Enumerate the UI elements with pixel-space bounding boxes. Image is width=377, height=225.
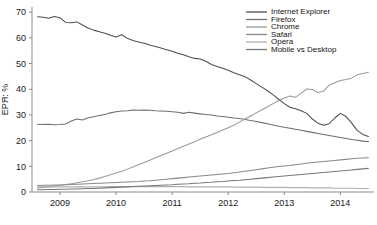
chart-legend: Internet ExplorerFirefoxChromeSafariOper… — [246, 7, 337, 54]
x-axis-tick-label: 2011 — [162, 198, 181, 208]
series-line-firefox — [38, 110, 369, 142]
series-lines-group — [38, 17, 369, 190]
x-axis-tick-label: 2009 — [50, 198, 70, 208]
y-axis-tick-label: 70 — [16, 7, 26, 17]
y-axis-tick-group: 010203040506070 — [16, 7, 32, 197]
x-axis-tick-label: 2012 — [218, 198, 238, 208]
legend-label-mobile-vs-desktop: Mobile vs Desktop — [271, 45, 337, 54]
y-axis-tick-label: 30 — [16, 110, 26, 120]
y-axis-tick-label: 20 — [16, 136, 26, 146]
chart-canvas: 010203040506070 200920102011201220132014… — [0, 0, 377, 225]
series-line-chrome — [38, 72, 369, 188]
x-axis-tick-label: 2013 — [274, 198, 294, 208]
x-axis-tick-label: 2010 — [106, 198, 126, 208]
y-axis-tick-label: 50 — [16, 59, 26, 69]
series-line-safari — [38, 158, 369, 186]
y-axis-label: EPЯ: % — [0, 84, 10, 116]
y-axis-tick-label: 40 — [16, 84, 26, 94]
x-axis-tick-group: 200920102011201220132014 — [50, 192, 350, 208]
y-axis-tick-label: 60 — [16, 33, 26, 43]
y-axis-tick-label: 10 — [16, 162, 26, 172]
x-axis-tick-label: 2014 — [330, 198, 350, 208]
y-axis-tick-label: 0 — [21, 187, 26, 197]
browser-market-share-chart: 010203040506070 200920102011201220132014… — [0, 0, 377, 225]
